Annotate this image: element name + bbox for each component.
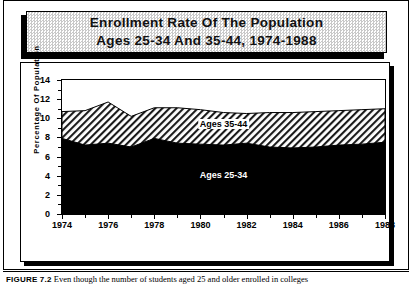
y-tick-label: 4 (30, 171, 50, 181)
y-tick-minor (58, 128, 61, 129)
x-tick-label: 1976 (98, 220, 118, 230)
y-tick-label: 6 (30, 152, 50, 162)
y-tick-mark (57, 118, 61, 119)
x-tick-mark (293, 215, 294, 219)
x-tick-label: 1988 (375, 220, 395, 230)
x-tick-mark (200, 215, 201, 219)
chart-title-line-1: Enrollment Rate Of The Population (90, 14, 323, 32)
y-tick-minor (58, 90, 61, 91)
y-tick-label: 10 (30, 113, 50, 123)
series-label-ages-25-34: Ages 25-34 (200, 170, 248, 180)
x-tick-mark (385, 215, 386, 219)
x-tick-minor (177, 215, 178, 218)
y-tick-mark (57, 195, 61, 196)
y-tick-minor (58, 204, 61, 205)
y-tick-mark (57, 176, 61, 177)
chart-title-line-2: Ages 25-34 And 35-44, 1974-1988 (96, 32, 316, 50)
x-tick-mark (108, 215, 109, 219)
x-tick-minor (362, 215, 363, 218)
y-tick-label: 12 (30, 94, 50, 104)
chart-box-shadow-right (390, 66, 394, 266)
series-label-ages-35-44: Ages 35-44 (198, 119, 250, 129)
x-tick-mark (339, 215, 340, 219)
plot-area (62, 80, 385, 214)
x-tick-mark (62, 215, 63, 219)
figure-caption-text: Even though the number of students aged … (54, 274, 308, 284)
x-tick-label: 1974 (52, 220, 72, 230)
x-tick-minor (316, 215, 317, 218)
y-tick-minor (58, 185, 61, 186)
x-tick-mark (247, 215, 248, 219)
page-border-left (3, 0, 4, 270)
plot-frame-right (385, 79, 386, 215)
y-tick-label: 14 (30, 75, 50, 85)
page-border-bottom (3, 269, 409, 270)
x-tick-mark (154, 215, 155, 219)
y-tick-label: 8 (30, 132, 50, 142)
chart-box-shadow-bottom (24, 262, 394, 266)
x-tick-label: 1986 (329, 220, 349, 230)
y-tick-label: 2 (30, 190, 50, 200)
x-tick-minor (224, 215, 225, 218)
x-tick-label: 1982 (237, 220, 257, 230)
caption-divider (3, 271, 409, 272)
figure-caption: FIGURE 7.2 Even though the number of stu… (6, 274, 408, 287)
y-tick-minor (58, 147, 61, 148)
stacked-area-series (62, 80, 385, 214)
y-tick-mark (57, 137, 61, 138)
y-tick-label: 0 (30, 209, 50, 219)
x-tick-minor (270, 215, 271, 218)
figure-caption-label: FIGURE 7.2 (6, 275, 52, 284)
page-border-top (3, 0, 409, 1)
y-tick-mark (57, 99, 61, 100)
x-tick-label: 1984 (283, 220, 303, 230)
y-tick-mark (57, 80, 61, 81)
x-tick-label: 1980 (190, 220, 210, 230)
y-tick-minor (58, 109, 61, 110)
figure-enrollment-rate: Enrollment Rate Of The Population Ages 2… (0, 0, 413, 287)
x-tick-minor (131, 215, 132, 218)
y-tick-mark (57, 214, 61, 215)
chart-title-plate: Enrollment Rate Of The Population Ages 2… (26, 11, 387, 53)
y-tick-mark (57, 157, 61, 158)
x-tick-label: 1978 (144, 220, 164, 230)
y-tick-minor (58, 166, 61, 167)
page-border-right (408, 0, 409, 270)
x-tick-minor (85, 215, 86, 218)
